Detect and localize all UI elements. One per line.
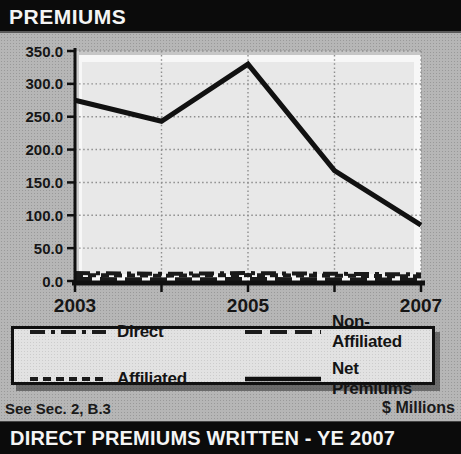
svg-text:150.0: 150.0 [25,174,63,191]
affiliated-line-sample-icon [28,374,108,384]
section-title: DIRECT PREMIUMS WRITTEN - YE 2007 [0,421,461,454]
svg-text:250.0: 250.0 [25,108,63,125]
section-title-text: DIRECT PREMIUMS WRITTEN - YE 2007 [10,427,395,449]
legend-label: Affiliated [117,369,187,389]
svg-text:300.0: 300.0 [25,75,63,92]
chart-legend: Direct Non-Affiliated Affiliated Net Pre… [11,326,435,385]
page-title-text: PREMIUMS [9,5,126,28]
legend-label: Net Premiums [332,359,422,399]
legend-item-non-affiliated: Non-Affiliated [243,312,422,352]
legend-item-direct: Direct [28,312,243,352]
source-note: See Sec. 2, B.3 [5,400,111,417]
legend-label: Non-Affiliated [332,312,422,352]
legend-item-net-premiums: Net Premiums [243,359,422,399]
svg-text:200.0: 200.0 [25,141,63,158]
non-affiliated-line-sample-icon [243,327,323,337]
net-premiums-line-sample-icon [243,374,323,384]
legend-label: Direct [117,322,163,342]
direct-line-sample-icon [28,327,108,337]
chart-footer: See Sec. 2, B.3 $ Millions [0,396,461,420]
page-title: PREMIUMS [0,0,461,33]
legend-item-affiliated: Affiliated [28,359,243,399]
svg-text:350.0: 350.0 [25,43,63,60]
svg-text:50.0: 50.0 [34,240,63,257]
svg-text:100.0: 100.0 [25,207,63,224]
report-page: PREMIUMS 0.050.0100.0150.0200.0250.0300.… [0,0,461,454]
svg-text:0.0: 0.0 [42,273,63,290]
units-label: $ Millions [382,399,455,417]
